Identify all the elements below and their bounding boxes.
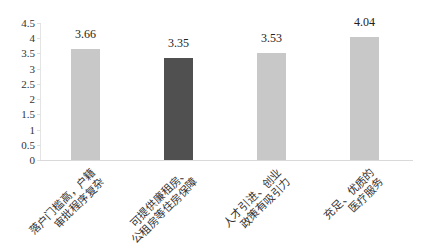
y-tick-label: 0.5 [21,139,35,151]
value-label: 3.53 [242,31,302,46]
y-tick-label: 2 [30,93,36,105]
value-label: 4.04 [335,15,395,30]
x-category-label: 可提供廉租房、公租房等住房保障 [120,166,201,247]
bar-chart: 00.511.522.533.544.53.66落户门槛高，户籍审批程序复杂3.… [0,0,425,251]
bar [257,53,286,160]
y-tick-label: 1 [30,124,36,136]
y-tick-label: 0 [30,154,36,166]
y-tick-label: 3.5 [21,47,35,59]
y-tick-label: 2.5 [21,78,35,90]
y-tick-mark [37,23,41,24]
x-category-label: 人才引进、创业政策有吸引力 [221,166,294,239]
y-tick-mark [37,53,41,54]
value-label: 3.66 [56,27,116,42]
x-axis-line [40,160,413,161]
y-tick-mark [37,38,41,39]
y-tick-label: 3 [30,63,36,75]
y-tick-mark [37,114,41,115]
y-tick-mark [37,99,41,100]
x-category-label: 充足、优质的医疗服务 [321,166,386,231]
y-tick-mark [37,84,41,85]
bar [350,37,379,160]
y-tick-mark [37,145,41,146]
bar [71,49,100,160]
y-axis-line [40,23,41,160]
y-tick-mark [37,130,41,131]
y-tick-label: 4 [30,32,36,44]
y-tick-mark [37,69,41,70]
bar [164,58,193,160]
y-tick-label: 1.5 [21,108,35,120]
x-category-label: 落户门槛高，户籍审批程序复杂 [27,166,108,247]
value-label: 3.35 [149,36,209,51]
y-tick-label: 4.5 [21,17,35,29]
